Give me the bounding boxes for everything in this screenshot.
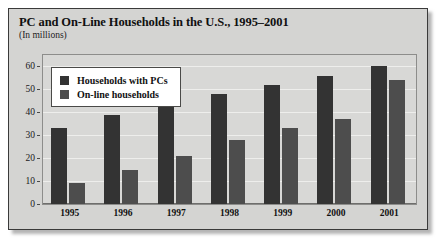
y-tick-label: 40 (26, 107, 36, 117)
legend-label: On-line households (77, 89, 159, 100)
legend-entry-households-with-pcs: Households with PCs (59, 73, 168, 87)
bar-group (309, 55, 362, 204)
y-tick-mark (37, 204, 40, 205)
y-tick-label: 50 (26, 84, 36, 94)
bar (104, 115, 120, 204)
y-tick-label: 10 (26, 176, 36, 186)
x-axis: 1995199619971998199920002001 (42, 207, 417, 223)
x-tick-label: 2001 (380, 208, 399, 218)
chart-header: PC and On-Line Households in the U.S., 1… (19, 15, 419, 41)
bar (282, 128, 298, 204)
bar (211, 94, 227, 204)
y-tick-mark (37, 181, 40, 182)
chart-units-subtitle: (In millions) (19, 29, 419, 41)
legend-swatch-icon (59, 75, 70, 86)
bar-group (203, 55, 256, 204)
bar (69, 183, 85, 204)
y-tick-mark (37, 135, 40, 136)
x-tick-label: 1996 (113, 208, 132, 218)
bar (335, 119, 351, 204)
y-tick-label: 0 (30, 199, 35, 209)
y-tick-label: 30 (26, 130, 36, 140)
bar (158, 103, 174, 204)
y-tick-mark (37, 66, 40, 67)
x-tick-label: 1998 (220, 208, 239, 218)
bar (389, 80, 405, 204)
y-tick-label: 20 (26, 153, 36, 163)
bar (371, 66, 387, 204)
bar-group (363, 55, 416, 204)
x-tick-label: 2000 (327, 208, 346, 218)
bar (51, 128, 67, 204)
bar (229, 140, 245, 204)
y-axis: 0102030405060 (9, 54, 40, 205)
x-tick-label: 1999 (273, 208, 292, 218)
chart-legend: Households with PCs On-line households (51, 67, 181, 107)
bar (317, 76, 333, 204)
legend-label: Households with PCs (77, 75, 168, 86)
bar (122, 170, 138, 204)
bar (176, 156, 192, 204)
y-tick-mark (37, 158, 40, 159)
chart-figure: PC and On-Line Households in the U.S., 1… (8, 8, 428, 230)
legend-entry-on-line-households: On-line households (59, 87, 168, 101)
chart-title: PC and On-Line Households in the U.S., 1… (19, 15, 419, 29)
x-tick-label: 1995 (60, 208, 79, 218)
bar (264, 85, 280, 204)
y-tick-mark (37, 89, 40, 90)
bar-group (256, 55, 309, 204)
legend-swatch-icon (59, 89, 70, 100)
y-tick-mark (37, 112, 40, 113)
y-tick-label: 60 (26, 61, 36, 71)
x-tick-label: 1997 (167, 208, 186, 218)
